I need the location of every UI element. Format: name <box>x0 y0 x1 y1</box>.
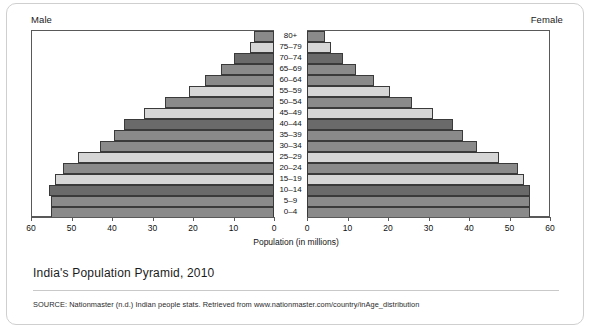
axis-tick <box>153 217 154 221</box>
table-row <box>32 119 274 130</box>
table-row <box>307 163 549 174</box>
source-note: SOURCE: Nationmaster (n.d.) Indian peopl… <box>33 300 419 309</box>
female-bar <box>307 174 524 185</box>
age-group-label: 70–74 <box>274 52 307 63</box>
axis-tick-label: 60 <box>26 223 35 233</box>
axis-tick-label: 40 <box>107 223 116 233</box>
table-row <box>307 196 549 207</box>
female-bar <box>307 141 477 152</box>
table-row <box>307 97 549 108</box>
table-row <box>32 64 274 75</box>
female-bar <box>307 163 518 174</box>
axis-tick <box>348 217 349 221</box>
male-bar <box>144 108 274 119</box>
male-bar <box>254 31 274 42</box>
table-row <box>32 141 274 152</box>
age-group-label: 10–14 <box>274 184 307 195</box>
axis-tick-label: 60 <box>545 223 554 233</box>
age-group-label: 40–44 <box>274 118 307 129</box>
age-group-axis: 80+75–7970–7465–6960–6455–5950–5445–4940… <box>274 30 307 217</box>
age-group-label: 50–54 <box>274 96 307 107</box>
female-bar <box>307 130 463 141</box>
table-row <box>32 31 274 42</box>
age-group-label: 35–39 <box>274 129 307 140</box>
male-bar <box>78 152 274 163</box>
male-axis-label: Male <box>31 14 52 25</box>
female-bar <box>307 152 499 163</box>
female-axis-label: Female <box>531 14 563 25</box>
axis-tick <box>193 217 194 221</box>
male-bar <box>234 53 275 64</box>
axis-tick-label: 20 <box>383 223 392 233</box>
axis-tick-label: 0 <box>305 223 310 233</box>
age-group-label: 25–29 <box>274 151 307 162</box>
axis-tick <box>72 217 73 221</box>
female-bar <box>307 196 530 207</box>
male-bar <box>124 119 274 130</box>
x-axis-title: Population (in millions) <box>7 237 585 247</box>
male-bar <box>250 42 274 53</box>
table-row <box>32 42 274 53</box>
female-bar <box>307 108 433 119</box>
female-bar <box>307 86 390 97</box>
table-row <box>307 119 549 130</box>
table-row <box>32 196 274 207</box>
table-row <box>307 64 549 75</box>
axis-tick-label: 10 <box>343 223 352 233</box>
table-row <box>32 53 274 64</box>
caption-divider <box>33 290 559 291</box>
axis-tick <box>510 217 511 221</box>
age-group-label: 60–64 <box>274 74 307 85</box>
axis-tick <box>31 217 32 221</box>
male-bar <box>51 196 274 207</box>
axis-tick-label: 10 <box>229 223 238 233</box>
axis-tick <box>274 217 275 221</box>
axis-tick-label: 30 <box>148 223 157 233</box>
axis-tick-label: 20 <box>188 223 197 233</box>
table-row <box>32 108 274 119</box>
age-group-label: 15–19 <box>274 173 307 184</box>
table-row <box>32 174 274 185</box>
table-row <box>307 75 549 86</box>
female-bar <box>307 97 412 108</box>
table-row <box>32 163 274 174</box>
axis-tick <box>234 217 235 221</box>
table-row <box>307 185 549 196</box>
male-bar-rows <box>32 31 274 216</box>
female-bar <box>307 64 356 75</box>
age-group-label: 45–49 <box>274 107 307 118</box>
female-bar <box>307 75 374 86</box>
table-row <box>307 86 549 97</box>
female-bar <box>307 42 331 53</box>
axis-tick <box>388 217 389 221</box>
table-row <box>32 86 274 97</box>
male-bar <box>221 64 274 75</box>
table-row <box>32 130 274 141</box>
table-row <box>307 152 549 163</box>
table-row <box>32 97 274 108</box>
female-bar <box>307 119 453 130</box>
male-plot-panel <box>31 30 274 217</box>
male-bar <box>49 185 274 196</box>
axis-tick-label: 50 <box>67 223 76 233</box>
table-row <box>32 75 274 86</box>
male-bar <box>165 97 274 108</box>
female-bar <box>307 185 530 196</box>
table-row <box>32 185 274 196</box>
female-plot-panel <box>307 30 550 217</box>
table-row <box>32 152 274 163</box>
male-bar <box>205 75 274 86</box>
male-bar <box>114 130 274 141</box>
table-row <box>307 174 549 185</box>
axis-tick <box>429 217 430 221</box>
axis-tick <box>112 217 113 221</box>
male-bar <box>100 141 274 152</box>
table-row <box>307 108 549 119</box>
axis-tick <box>550 217 551 221</box>
male-bar <box>63 163 274 174</box>
age-group-label: 30–34 <box>274 140 307 151</box>
axis-tick <box>469 217 470 221</box>
table-row <box>307 53 549 64</box>
figure-card: Male Female 80+75–7970–7465–6960–6455–59… <box>6 3 584 325</box>
age-group-label: 0–4 <box>274 206 307 217</box>
